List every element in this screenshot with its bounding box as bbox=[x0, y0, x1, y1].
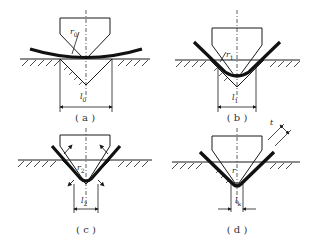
span-label-b: l1 bbox=[232, 93, 238, 104]
hatch-right bbox=[118, 60, 148, 66]
radius-label-c: r2 bbox=[77, 163, 85, 174]
punch bbox=[60, 135, 110, 181]
radius-label-b: r1 bbox=[226, 50, 234, 61]
v-die bbox=[60, 59, 112, 85]
span-label-c: l2 bbox=[81, 196, 87, 207]
radius-label-d: r bbox=[232, 166, 236, 177]
hatch-v bbox=[64, 66, 83, 85]
punch bbox=[60, 18, 110, 58]
sheet bbox=[30, 49, 142, 58]
span-label-d: lk bbox=[235, 196, 241, 207]
v-bending-stages-diagram bbox=[0, 0, 313, 247]
thickness-label-d: t bbox=[270, 118, 273, 127]
caption-b: ( b ) bbox=[217, 112, 257, 123]
radius-label-a: r0 bbox=[70, 27, 78, 38]
caption-c: ( c ) bbox=[66, 224, 106, 235]
hatch-left bbox=[22, 60, 60, 66]
span-label-a: l0 bbox=[80, 92, 86, 103]
caption-a: ( a ) bbox=[65, 112, 105, 123]
caption-d: ( d ) bbox=[217, 224, 257, 235]
